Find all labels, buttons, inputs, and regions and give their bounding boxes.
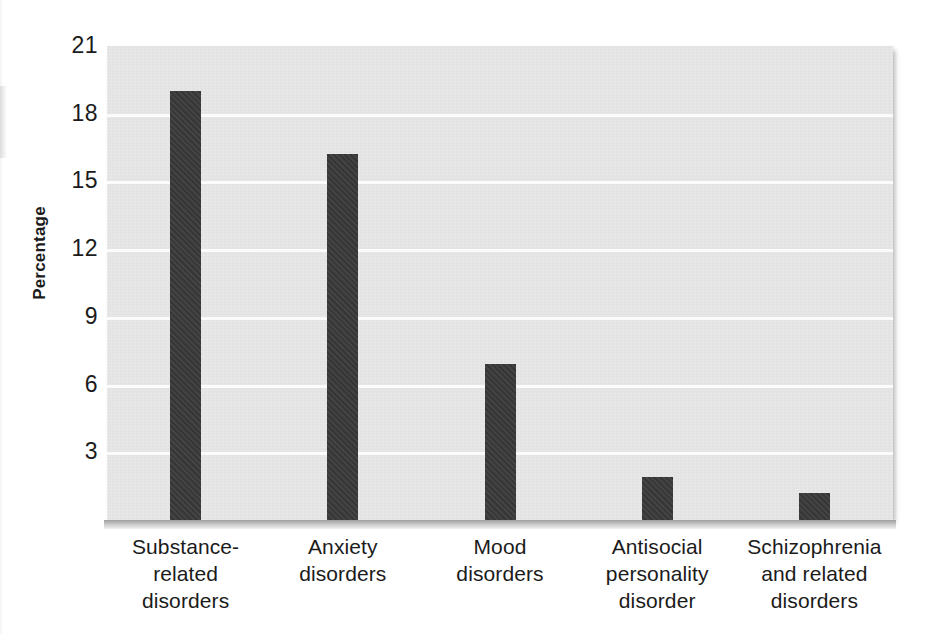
bar xyxy=(642,477,673,520)
plot-area xyxy=(107,46,893,520)
y-tick-label: 21 xyxy=(48,34,98,57)
bar-chart-figure: Percentage 21181512963 Substance-related… xyxy=(0,0,952,634)
y-tick-label: 9 xyxy=(48,305,98,328)
scan-edge-smudge xyxy=(0,86,7,158)
x-axis-tick-labels: Substance-relateddisordersAnxietydisorde… xyxy=(107,533,893,633)
x-tick-label-line: disorders xyxy=(729,587,899,614)
x-tick-label: Schizophreniaand relateddisorders xyxy=(729,533,899,614)
y-tick-label: 18 xyxy=(48,102,98,125)
bar xyxy=(327,154,358,520)
x-tick-label-line: Anxiety xyxy=(258,533,428,560)
y-tick-label: 6 xyxy=(48,373,98,396)
y-tick-label: 3 xyxy=(48,440,98,463)
gridline xyxy=(107,181,893,184)
x-tick-label-line: disorders xyxy=(415,560,585,587)
y-tick-label: 12 xyxy=(48,237,98,260)
x-tick-label-line: Antisocial xyxy=(572,533,742,560)
x-tick-label-line: and related xyxy=(729,560,899,587)
x-tick-label-line: related xyxy=(101,560,271,587)
gridline xyxy=(107,114,893,117)
bar xyxy=(170,91,201,520)
x-tick-label-line: disorders xyxy=(258,560,428,587)
x-tick-label-line: Substance- xyxy=(101,533,271,560)
x-tick-label: Antisocialpersonalitydisorder xyxy=(572,533,742,614)
bar xyxy=(485,364,516,520)
x-tick-label-line: disorders xyxy=(101,587,271,614)
x-axis-baseline xyxy=(104,520,896,529)
x-tick-label-line: disorder xyxy=(572,587,742,614)
y-tick-label: 15 xyxy=(48,169,98,192)
x-tick-label-line: personality xyxy=(572,560,742,587)
x-tick-label: Anxietydisorders xyxy=(258,533,428,587)
bar xyxy=(799,493,830,520)
y-axis-title: Percentage xyxy=(30,183,50,323)
x-tick-label: Mooddisorders xyxy=(415,533,585,587)
x-tick-label-line: Mood xyxy=(415,533,585,560)
y-axis-tick-labels: 21181512963 xyxy=(48,0,98,634)
x-tick-label: Substance-relateddisorders xyxy=(101,533,271,614)
x-tick-label-line: Schizophrenia xyxy=(729,533,899,560)
gridline xyxy=(107,317,893,320)
gridline xyxy=(107,249,893,252)
